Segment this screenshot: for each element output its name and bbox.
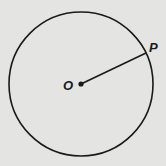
- radius-segment: [81, 53, 146, 84]
- circle-diagram: O P: [0, 0, 166, 166]
- point-label: P: [149, 40, 158, 55]
- center-point: [78, 81, 83, 86]
- center-label: O: [63, 78, 73, 93]
